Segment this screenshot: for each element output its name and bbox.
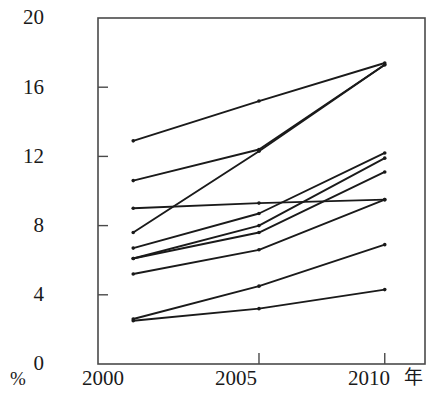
y-tick-label-16: 16 <box>0 77 44 98</box>
x-axis-ticks <box>259 353 385 364</box>
series-line <box>131 288 386 323</box>
series-line <box>131 63 386 183</box>
y-tick-label-8: 8 <box>0 215 44 236</box>
line-chart: 20 16 12 8 4 0 2000 2005 2010 % 年 <box>0 0 432 396</box>
chart-plot-area <box>0 0 432 396</box>
x-axis-unit-label: 年 <box>404 368 423 387</box>
y-tick-label-4: 4 <box>0 284 44 305</box>
x-tick-label-2005: 2005 <box>215 368 257 389</box>
y-axis-ticks <box>98 87 108 295</box>
x-tick-label-2000: 2000 <box>82 368 124 389</box>
x-tick-label-2010: 2010 <box>348 368 390 389</box>
y-axis-unit-label: % <box>10 369 26 388</box>
y-tick-label-12: 12 <box>0 146 44 167</box>
series-line <box>131 61 386 142</box>
data-series-group <box>131 61 386 322</box>
y-tick-label-20: 20 <box>0 7 44 28</box>
